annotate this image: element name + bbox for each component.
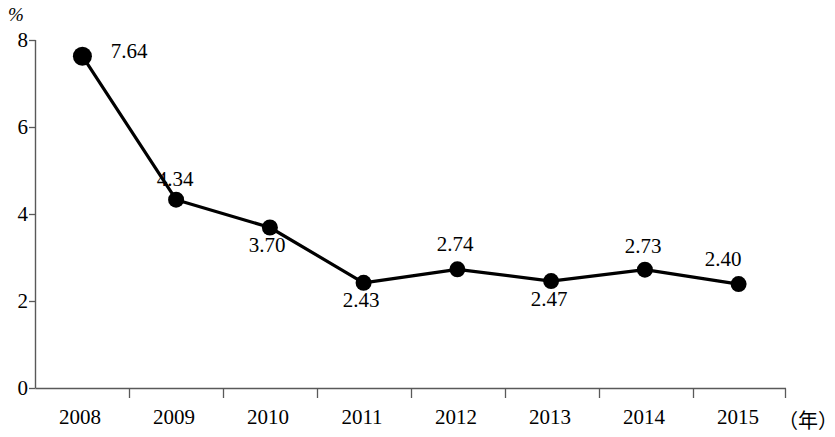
point-label-2009: 4.34 bbox=[143, 167, 207, 192]
x-tick-label-2012: 2012 bbox=[424, 405, 488, 430]
point-label-2014: 2.73 bbox=[611, 234, 675, 259]
point-label-2011: 2.43 bbox=[329, 288, 393, 313]
x-tick-label-2015: 2015 bbox=[706, 405, 770, 430]
point-label-2012: 2.74 bbox=[423, 232, 487, 257]
x-tick-label-2011: 2011 bbox=[330, 405, 394, 430]
data-point-2008 bbox=[73, 47, 92, 66]
data-point-2009 bbox=[168, 192, 184, 208]
data-point-2015 bbox=[731, 276, 747, 292]
x-axis-caption: （年） bbox=[778, 405, 835, 434]
x-tick-label-2013: 2013 bbox=[518, 405, 582, 430]
x-tick-label-2014: 2014 bbox=[612, 405, 676, 430]
point-label-2008: 7.64 bbox=[97, 39, 161, 64]
data-point-2014 bbox=[637, 262, 653, 278]
x-tick-label-2010: 2010 bbox=[236, 405, 300, 430]
point-label-2013: 2.47 bbox=[517, 287, 581, 312]
data-point-2012 bbox=[449, 261, 465, 277]
chart-plot-area bbox=[0, 0, 835, 437]
line-chart: % 8 6 4 2 0 7.64 4.34 3.70 2.43 2.74 2.4… bbox=[0, 0, 835, 437]
point-label-2010: 3.70 bbox=[235, 233, 299, 258]
x-tick-label-2009: 2009 bbox=[142, 405, 206, 430]
x-tick-label-2008: 2008 bbox=[48, 405, 112, 430]
point-label-2015: 2.40 bbox=[691, 247, 755, 272]
